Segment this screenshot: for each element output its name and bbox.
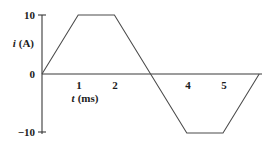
x-axis-title-unit: (ms) — [78, 92, 99, 105]
y-tick-label-0: 0 — [30, 68, 36, 80]
x-tick-label-5: 5 — [221, 79, 227, 91]
y-axis-title-unit: (A) — [19, 37, 35, 50]
current-waveform-chart: 10 0 −10 1 2 4 5 i(A) t(ms) — [0, 0, 269, 146]
y-tick-label-10: 10 — [24, 9, 36, 21]
x-tick-label-1: 1 — [76, 79, 82, 91]
x-axis-title-var: t — [72, 92, 76, 104]
waveform-figure: 10 0 −10 1 2 4 5 i(A) t(ms) — [0, 0, 269, 146]
x-tick-label-4: 4 — [185, 79, 191, 91]
x-axis-title: t(ms) — [72, 92, 99, 105]
x-tick-label-2: 2 — [112, 79, 118, 91]
y-axis-title-var: i — [13, 37, 17, 49]
y-axis-title: i(A) — [13, 37, 35, 50]
y-tick-label-minus-10: −10 — [18, 126, 36, 138]
